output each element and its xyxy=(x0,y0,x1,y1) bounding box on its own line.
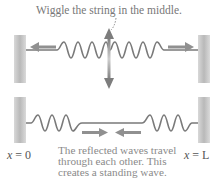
left-arrow-bottom xyxy=(115,128,141,137)
up-arrow-head xyxy=(104,28,114,39)
caption: The reflected waves travel through each … xyxy=(58,145,178,178)
bottom-panel xyxy=(14,97,210,143)
label-x-L: x = L xyxy=(184,148,209,163)
right-arrow-bottom xyxy=(82,128,108,137)
leader-line xyxy=(111,18,116,30)
right-wall-top xyxy=(198,35,210,83)
caption-line-3: creates a standing wave. xyxy=(58,167,178,178)
down-arrow-head xyxy=(104,78,114,89)
left-wall-bottom xyxy=(14,97,26,143)
top-panel xyxy=(14,18,210,89)
string-top xyxy=(26,42,198,58)
right-wall-bottom xyxy=(198,97,210,143)
string-bottom xyxy=(26,115,198,131)
left-wall-top xyxy=(14,35,26,83)
vertical-shaft xyxy=(108,38,111,80)
label-x-zero: x = 0 xyxy=(7,148,31,163)
